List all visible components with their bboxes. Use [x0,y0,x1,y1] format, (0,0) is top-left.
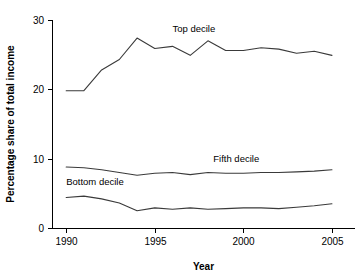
y-tick-label: 30 [33,15,45,26]
series-line-fifth-decile [66,167,332,175]
y-tick-label: 0 [38,223,44,234]
series-label-fifth-decile: Fifth decile [213,153,259,164]
series-label-top-decile: Top decile [172,23,215,34]
chart-container: 0102030 1990199520002005 Top decileFifth… [0,0,364,280]
x-axis-ticks [67,229,333,233]
x-tick-label: 2005 [321,236,344,247]
y-axis-title: Percentage share of total income [5,45,16,203]
x-tick-label: 2000 [232,236,255,247]
x-tick-label: 1990 [55,236,78,247]
y-tick-label: 10 [33,154,45,165]
series-line-top-decile [66,38,332,91]
series-label-bottom-decile: Bottom decile [66,176,124,187]
x-axis-title: Year [193,261,214,272]
y-tick-label: 20 [33,84,45,95]
line-chart: 0102030 1990199520002005 Top decileFifth… [0,0,364,280]
y-axis-ticks [48,21,52,229]
y-axis-tick-labels: 0102030 [33,15,45,234]
x-axis-tick-labels: 1990199520002005 [55,236,344,247]
x-tick-label: 1995 [144,236,167,247]
series-line-bottom-decile [66,196,332,211]
